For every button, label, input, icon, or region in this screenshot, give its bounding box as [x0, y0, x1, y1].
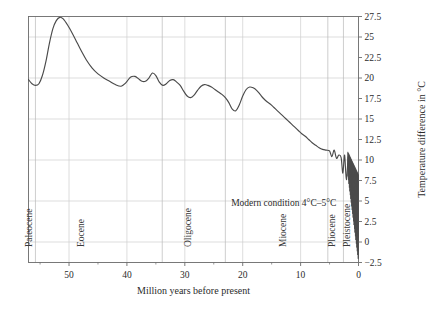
x-axis-tick-label: 30	[180, 270, 190, 280]
y-axis-tick-label: 7.5	[365, 176, 377, 186]
x-axis-tick-label: 0	[356, 270, 361, 280]
y-axis-title: Temperature difference in °C	[416, 81, 427, 198]
y-axis-tick-label: 22.5	[365, 53, 382, 63]
x-axis-tick-label: 50	[64, 270, 74, 280]
y-axis-tick-label: 0	[365, 237, 370, 247]
modern-condition-annotation: Modern condition 4°C–5°C	[231, 198, 336, 208]
y-axis-tick-label: 12.5	[365, 135, 382, 145]
y-axis-tick-label: 27.5	[365, 12, 382, 22]
x-axis-tick-label: 20	[238, 270, 248, 280]
epoch-label-miocene: Miocene	[278, 214, 288, 247]
epoch-label-oligocene: Oligocene	[183, 208, 193, 247]
epoch-label-paleocene: Paleocene	[24, 208, 34, 247]
temperature-history-chart: 50403020100Million years before present−…	[0, 0, 436, 311]
y-axis-tick-label: 10	[365, 155, 375, 165]
y-axis-tick-label: 20	[365, 73, 375, 83]
y-axis-tick-label: −2.5	[365, 258, 382, 268]
epoch-label-pliocene: Pliocene	[327, 214, 337, 247]
epoch-label-pleistocene: Pleistocene	[342, 204, 352, 247]
x-axis-tick-label: 10	[296, 270, 306, 280]
x-axis-title: Million years before present	[137, 285, 250, 296]
y-axis-tick-label: 17.5	[365, 94, 382, 104]
epoch-label-eocene: Eocene	[76, 219, 86, 247]
y-axis-tick-label: 15	[365, 114, 375, 124]
y-axis-tick-label: 25	[365, 32, 375, 42]
chart-canvas: 50403020100Million years before present−…	[0, 0, 436, 311]
y-axis-tick-label: 5	[365, 196, 370, 206]
y-axis-tick-label: 2.5	[365, 217, 377, 227]
x-axis-tick-label: 40	[122, 270, 132, 280]
